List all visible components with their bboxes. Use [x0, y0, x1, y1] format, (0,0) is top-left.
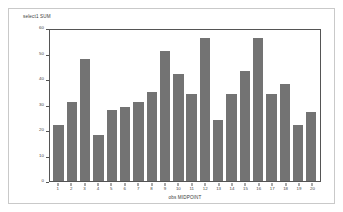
x-axis-tick-label: 20 — [306, 186, 319, 192]
bar-slot — [278, 30, 291, 181]
x-axis-tick-label: 9 — [158, 186, 171, 192]
x-axis-tick: 7 — [131, 183, 144, 193]
x-axis-tick: 3 — [78, 183, 91, 193]
x-axis: 1234567891011121314151617181920 — [49, 183, 321, 193]
bar-slot — [225, 30, 238, 181]
bar — [186, 94, 196, 181]
x-axis-tick: 13 — [212, 183, 225, 193]
x-axis-tick-label: 6 — [118, 186, 131, 192]
bar — [226, 94, 236, 181]
x-axis-tick: 19 — [292, 183, 305, 193]
x-axis-tick: 11 — [185, 183, 198, 193]
x-axis-tick: 6 — [118, 183, 131, 193]
bar — [253, 38, 263, 181]
x-axis-tick-label: 1 — [51, 186, 64, 192]
bar — [80, 59, 90, 181]
chart-frame: select1 SUM 0102030405060 12345678910111… — [8, 8, 335, 204]
x-axis-tick-label: 19 — [292, 186, 305, 192]
bar-slot — [305, 30, 318, 181]
bar — [107, 110, 117, 181]
y-axis-tick-label: 30 — [39, 102, 44, 107]
x-axis-tick: 16 — [252, 183, 265, 193]
y-axis-tick-label: 10 — [39, 153, 44, 158]
x-axis-tick-label: 14 — [225, 186, 238, 192]
bar — [67, 102, 77, 181]
x-axis-tick-label: 11 — [185, 186, 198, 192]
x-axis-tick: 5 — [105, 183, 118, 193]
bar-slot — [198, 30, 211, 181]
x-axis-tick: 2 — [64, 183, 77, 193]
y-axis-tick-label: 40 — [39, 76, 44, 81]
bar — [133, 102, 143, 181]
plot-area — [49, 29, 321, 182]
bar-slot — [238, 30, 251, 181]
y-axis-tick-label: 20 — [39, 127, 44, 132]
bar-slot — [105, 30, 118, 181]
bar — [93, 135, 103, 181]
x-axis-tick: 18 — [279, 183, 292, 193]
bar-slot — [132, 30, 145, 181]
x-axis-tick-label: 13 — [212, 186, 225, 192]
bar — [266, 94, 276, 181]
bar-slot — [92, 30, 105, 181]
x-axis-tick: 14 — [225, 183, 238, 193]
x-axis-tick-label: 7 — [131, 186, 144, 192]
bar — [240, 71, 250, 181]
x-axis-tick: 17 — [266, 183, 279, 193]
x-axis-tick: 20 — [306, 183, 319, 193]
x-axis-tick-label: 2 — [64, 186, 77, 192]
bar — [200, 38, 210, 181]
y-axis-title: select1 SUM — [23, 14, 51, 20]
bar-slot — [52, 30, 65, 181]
bar-slot — [118, 30, 131, 181]
x-axis-tick: 12 — [198, 183, 211, 193]
x-axis-tick: 4 — [91, 183, 104, 193]
bar — [306, 112, 316, 181]
bar-slot — [185, 30, 198, 181]
bar-slot — [158, 30, 171, 181]
bar — [160, 51, 170, 181]
bar-slot — [145, 30, 158, 181]
bar-slot — [291, 30, 304, 181]
bar-series — [50, 30, 320, 181]
bar — [173, 74, 183, 181]
bar — [213, 120, 223, 181]
x-axis-tick-label: 18 — [279, 186, 292, 192]
y-axis-tick-label: 60 — [39, 25, 44, 30]
bar-slot — [172, 30, 185, 181]
x-axis-title: obs MIDPOINT — [49, 195, 321, 201]
x-axis-tick: 8 — [145, 183, 158, 193]
y-axis-tick-label: 50 — [39, 51, 44, 56]
bar — [280, 84, 290, 181]
y-axis-tick-label: 0 — [41, 178, 44, 183]
x-axis-tick-label: 5 — [105, 186, 118, 192]
x-axis-tick: 15 — [239, 183, 252, 193]
x-axis-tick-label: 12 — [198, 186, 211, 192]
x-axis-tick: 9 — [158, 183, 171, 193]
x-axis-tick-label: 17 — [266, 186, 279, 192]
x-axis-tick-label: 10 — [172, 186, 185, 192]
bar — [120, 107, 130, 181]
bar-slot — [265, 30, 278, 181]
bar-slot — [65, 30, 78, 181]
x-axis-tick: 1 — [51, 183, 64, 193]
y-axis: 0102030405060 — [9, 29, 49, 182]
bar — [53, 125, 63, 181]
bar-slot — [251, 30, 264, 181]
x-axis-tick-label: 4 — [91, 186, 104, 192]
x-axis-tick-label: 16 — [252, 186, 265, 192]
x-axis-tick-label: 3 — [78, 186, 91, 192]
x-axis-tick: 10 — [172, 183, 185, 193]
bar — [293, 125, 303, 181]
bar — [147, 92, 157, 181]
bar-slot — [212, 30, 225, 181]
bar-slot — [79, 30, 92, 181]
x-axis-tick-label: 8 — [145, 186, 158, 192]
x-axis-tick-label: 15 — [239, 186, 252, 192]
